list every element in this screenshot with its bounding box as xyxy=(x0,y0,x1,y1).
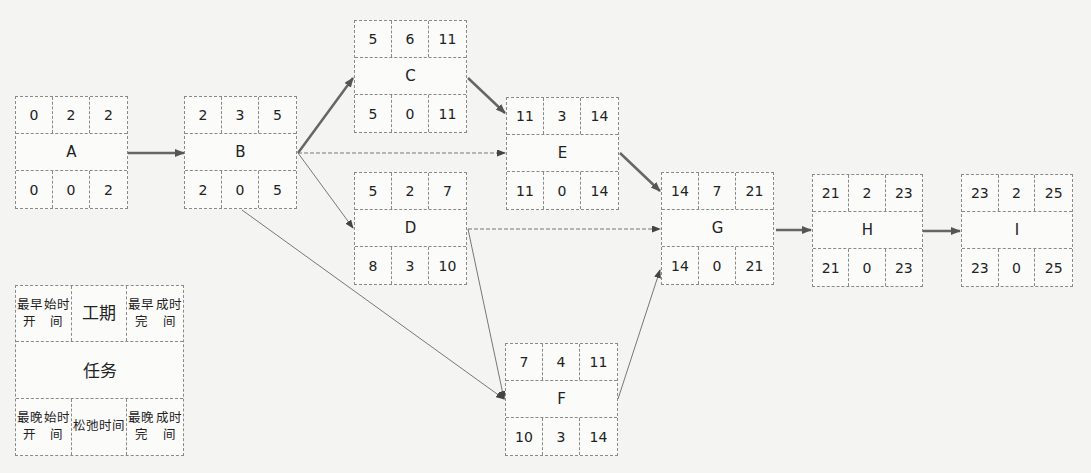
early-finish: 5 xyxy=(259,97,296,133)
legend-early-finish: 最早完 成时间 xyxy=(127,286,183,341)
task-name: E xyxy=(507,135,618,172)
legend-text: 最早开 xyxy=(16,297,43,331)
slack: 0 xyxy=(699,247,736,284)
node-g: 14 7 21 G 14 0 21 xyxy=(661,172,774,285)
edge-b-c xyxy=(298,78,353,153)
slack: 0 xyxy=(222,171,259,208)
edge-f-g xyxy=(618,270,660,399)
edge-c-e xyxy=(468,78,505,113)
late-finish: 14 xyxy=(580,418,617,455)
late-finish: 5 xyxy=(259,171,296,208)
early-finish: 11 xyxy=(580,344,617,380)
task-name: C xyxy=(355,58,466,95)
slack: 0 xyxy=(392,95,429,132)
duration: 2 xyxy=(999,175,1036,211)
early-finish: 25 xyxy=(1035,175,1072,211)
legend-text: 最晚开 xyxy=(16,410,43,444)
legend-text: 最晚完 xyxy=(127,410,155,444)
late-finish: 21 xyxy=(736,247,773,284)
legend-text: 最早完 xyxy=(127,297,155,331)
legend-early-start: 最早开 始时间 xyxy=(16,286,72,341)
legend-text: 时间 xyxy=(99,418,125,435)
early-start: 5 xyxy=(355,21,392,57)
legend-slack: 松弛 时间 xyxy=(72,399,128,455)
node-e: 11 3 14 E 11 0 14 xyxy=(506,97,619,210)
edge-e-g xyxy=(620,153,660,191)
late-finish: 23 xyxy=(886,249,922,286)
late-start: 21 xyxy=(813,249,849,286)
legend-text: 成时间 xyxy=(155,297,183,331)
late-finish: 25 xyxy=(1035,249,1072,286)
late-finish: 2 xyxy=(90,171,127,208)
legend-text: 始时间 xyxy=(43,410,70,444)
late-finish: 10 xyxy=(429,247,466,284)
legend-text: 松弛 xyxy=(73,418,99,435)
legend-box: 最早开 始时间 工期 最早完 成时间 任务 最晚开 始时间 松弛 时间 最晚完 … xyxy=(15,285,184,456)
edge-d-f xyxy=(468,229,504,399)
early-start: 0 xyxy=(16,97,53,133)
edge-b-d xyxy=(298,153,353,228)
legend-text: 始时间 xyxy=(43,297,70,331)
slack: 0 xyxy=(53,171,90,208)
early-finish: 21 xyxy=(736,173,773,209)
early-finish: 7 xyxy=(429,173,466,209)
slack: 0 xyxy=(544,172,581,209)
early-finish: 11 xyxy=(429,21,466,57)
early-start: 21 xyxy=(813,175,849,211)
late-start: 23 xyxy=(962,249,999,286)
late-start: 8 xyxy=(355,247,392,284)
node-b: 2 3 5 B 2 0 5 xyxy=(184,96,297,209)
node-d: 5 2 7 D 8 3 10 xyxy=(354,172,467,285)
node-a: 0 2 2 A 0 0 2 xyxy=(15,96,128,209)
early-start: 11 xyxy=(507,98,544,134)
legend-late-start: 最晚开 始时间 xyxy=(16,399,72,455)
task-name: G xyxy=(662,210,773,247)
late-start: 5 xyxy=(355,95,392,132)
early-start: 2 xyxy=(185,97,222,133)
slack: 3 xyxy=(392,247,429,284)
legend-late-finish: 最晚完 成时间 xyxy=(127,399,183,455)
duration: 2 xyxy=(849,175,885,211)
task-name: F xyxy=(506,381,617,418)
duration: 3 xyxy=(222,97,259,133)
slack: 0 xyxy=(999,249,1036,286)
early-finish: 23 xyxy=(886,175,922,211)
duration: 6 xyxy=(392,21,429,57)
task-name: H xyxy=(813,212,922,249)
task-name: B xyxy=(185,134,296,171)
legend-duration: 工期 xyxy=(72,286,128,341)
task-name: I xyxy=(962,212,1072,249)
early-finish: 2 xyxy=(90,97,127,133)
duration: 3 xyxy=(544,98,581,134)
late-finish: 14 xyxy=(581,172,618,209)
duration: 7 xyxy=(699,173,736,209)
late-start: 0 xyxy=(16,171,53,208)
late-start: 2 xyxy=(185,171,222,208)
task-name: A xyxy=(16,134,127,171)
slack: 3 xyxy=(543,418,580,455)
duration: 2 xyxy=(53,97,90,133)
early-finish: 14 xyxy=(581,98,618,134)
early-start: 5 xyxy=(355,173,392,209)
duration: 4 xyxy=(543,344,580,380)
task-name: D xyxy=(355,210,466,247)
slack: 0 xyxy=(849,249,885,286)
node-i: 23 2 25 I 23 0 25 xyxy=(961,174,1073,287)
legend-task: 任务 xyxy=(16,342,183,398)
late-start: 11 xyxy=(507,172,544,209)
node-c: 5 6 11 C 5 0 11 xyxy=(354,20,467,133)
late-start: 10 xyxy=(506,418,543,455)
early-start: 14 xyxy=(662,173,699,209)
late-finish: 11 xyxy=(429,95,466,132)
node-h: 21 2 23 H 21 0 23 xyxy=(812,174,923,287)
legend-text: 成时间 xyxy=(155,410,183,444)
late-start: 14 xyxy=(662,247,699,284)
early-start: 23 xyxy=(962,175,999,211)
early-start: 7 xyxy=(506,344,543,380)
duration: 2 xyxy=(392,173,429,209)
node-f: 7 4 11 F 10 3 14 xyxy=(505,343,618,456)
